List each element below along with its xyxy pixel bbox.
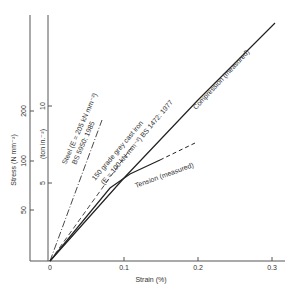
- y2-axis-label: (ton in.⁻²): [39, 129, 47, 159]
- stress-strain-chart: 200 100 50 10 5 0 0.1 0.2 0.3 Stress (N …: [0, 0, 299, 292]
- x-axis-label: Strain (%): [135, 276, 166, 284]
- ytick-50: 50: [20, 206, 27, 214]
- xtick-0.3: 0.3: [267, 264, 277, 271]
- tension-extrapolated-line: [160, 143, 195, 160]
- ytick-200: 200: [20, 105, 27, 117]
- y2tick-10: 10: [39, 102, 46, 110]
- xtick-0: 0: [48, 264, 52, 271]
- cast-iron-annotation-1: 150 grade grey cast iron: [90, 119, 145, 182]
- y-axis-label: Stress (N mm⁻²): [10, 134, 18, 185]
- y2tick-5: 5: [39, 181, 46, 185]
- ytick-100: 100: [20, 155, 27, 167]
- xtick-0.1: 0.1: [119, 264, 129, 271]
- xtick-0.2: 0.2: [193, 264, 203, 271]
- tension-annotation: Tension (measured): [134, 161, 195, 190]
- compression-annotation: Compression (measured): [192, 48, 252, 111]
